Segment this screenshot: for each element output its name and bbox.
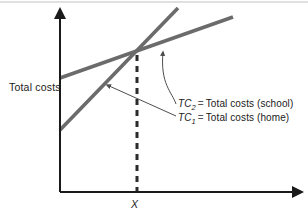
- tc1-line-home: [60, 8, 178, 130]
- cost-comparison-figure: Total costs X TC2=Total costs (school) T…: [0, 0, 308, 214]
- legend-equals-tc1: =: [196, 112, 206, 123]
- x-axis-label: X: [131, 198, 138, 210]
- tc2-annotation-arrow: [163, 52, 176, 104]
- legend-description-tc2: Total costs (school): [206, 98, 294, 109]
- tc2-line-school: [60, 17, 233, 78]
- legend-description-tc1: Total costs (home): [206, 112, 290, 123]
- legend-item-tc2: TC2=Total costs (school): [178, 98, 293, 112]
- legend-item-tc1: TC1=Total costs (home): [178, 112, 289, 126]
- tc1-annotation-arrow: [107, 85, 176, 116]
- legend-symbol-tc1: TC1: [178, 112, 196, 123]
- y-axis-label: Total costs: [9, 81, 61, 93]
- legend-symbol-tc2: TC2: [178, 98, 196, 109]
- legend-equals-tc2: =: [196, 98, 206, 109]
